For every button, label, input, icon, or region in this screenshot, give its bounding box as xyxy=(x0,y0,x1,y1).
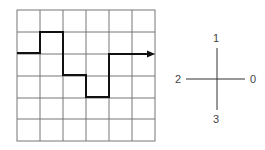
compass-label-left: 2 xyxy=(175,74,181,85)
compass-label-down: 3 xyxy=(213,114,219,125)
compass xyxy=(186,48,245,110)
compass-label-right: 0 xyxy=(250,74,256,85)
step-path xyxy=(17,32,150,97)
compass-label-up: 1 xyxy=(213,33,219,44)
arrow-head-icon xyxy=(147,51,155,58)
grid-diagram xyxy=(0,0,265,150)
